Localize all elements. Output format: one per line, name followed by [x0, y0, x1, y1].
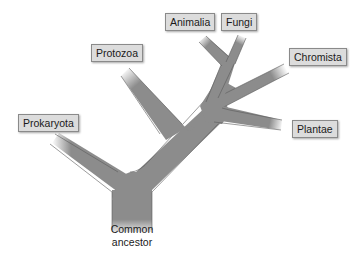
- label-animalia: Animalia: [165, 13, 215, 31]
- root-label-line2: ancestor: [97, 236, 167, 249]
- label-protozoa: Protozoa: [91, 44, 143, 62]
- root-label-line1: Common: [97, 223, 167, 236]
- label-fungi: Fungi: [221, 13, 257, 31]
- label-prokaryota: Prokaryota: [18, 114, 79, 132]
- branch-plantae: [214, 106, 282, 130]
- label-common-ancestor: Common ancestor: [97, 223, 167, 249]
- branch-fungi: [226, 35, 246, 64]
- label-plantae: Plantae: [292, 120, 338, 138]
- branch-prokaryota: [50, 133, 128, 192]
- label-chromista: Chromista: [289, 48, 347, 66]
